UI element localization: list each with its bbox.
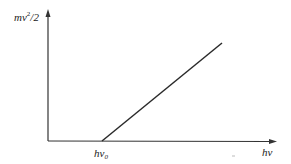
x-axis-label: hv xyxy=(262,146,273,158)
x-axis xyxy=(48,141,270,142)
y-axis-arrowhead-icon xyxy=(46,9,51,17)
data-line xyxy=(102,43,222,141)
y-axis-label: mv2/2 xyxy=(14,10,39,23)
photoelectric-chart: mv2/2 hv0 hv xyxy=(0,0,291,164)
x-axis-arrowhead-icon xyxy=(269,139,277,144)
threshold-label: hv0 xyxy=(94,147,108,161)
